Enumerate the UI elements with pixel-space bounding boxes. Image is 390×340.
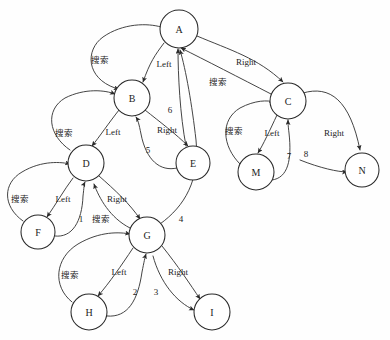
edge-f-to-d bbox=[8, 162, 71, 221]
node-label-f: F bbox=[35, 227, 41, 238]
lbl-left-d-f: Left bbox=[56, 194, 71, 204]
node-label-n: N bbox=[358, 165, 365, 176]
lbl-right-b-e: Right bbox=[157, 125, 178, 135]
node-i[interactable]: I bbox=[194, 294, 230, 330]
edge-c-to-n bbox=[300, 160, 347, 172]
edge-d-to-b bbox=[52, 91, 115, 150]
lbl-search-d-f: 搜索 bbox=[11, 194, 29, 204]
node-label-m: M bbox=[252, 167, 261, 178]
node-label-d: D bbox=[82, 158, 89, 169]
lbl-left-c-m: Left bbox=[265, 128, 280, 138]
node-label-g: G bbox=[143, 230, 150, 241]
edge-h-to-g bbox=[107, 254, 146, 316]
edge-c-to-a bbox=[181, 48, 271, 94]
edge-g-to-i bbox=[153, 256, 194, 310]
node-h[interactable]: H bbox=[71, 294, 107, 330]
node-b[interactable]: B bbox=[114, 80, 150, 116]
node-e[interactable]: E bbox=[176, 146, 210, 180]
lbl-right-d-g: Right bbox=[107, 194, 128, 204]
lbl-search-a-b: 搜索 bbox=[91, 55, 109, 65]
node-label-h: H bbox=[85, 307, 92, 318]
lbl-step-8: 8 bbox=[304, 149, 309, 159]
node-label-e: E bbox=[190, 158, 196, 169]
lbl-right-c-n: Right bbox=[324, 128, 345, 138]
node-c[interactable]: C bbox=[270, 83, 306, 119]
lbl-left-a-b: Left bbox=[157, 59, 172, 69]
lbl-left-b-d: Left bbox=[106, 127, 121, 137]
edge-c-to-n bbox=[303, 91, 360, 150]
node-n[interactable]: N bbox=[345, 153, 379, 187]
lbl-step-4: 4 bbox=[179, 214, 184, 224]
node-label-i: I bbox=[210, 307, 213, 318]
lbl-search-g-h: 搜索 bbox=[61, 270, 79, 280]
lbl-search-g-d: 搜索 bbox=[92, 214, 110, 224]
lbl-search-b-d: 搜索 bbox=[55, 128, 73, 138]
lbl-step-3: 3 bbox=[154, 287, 159, 297]
lbl-step-1: 1 bbox=[79, 214, 84, 224]
diagram-canvas: 搜索LeftRight搜索6搜索LeftRight5搜索LeftRight78搜… bbox=[0, 0, 390, 340]
lbl-step-6: 6 bbox=[168, 105, 173, 115]
lbl-step-2: 2 bbox=[133, 287, 138, 297]
node-label-c: C bbox=[285, 96, 292, 107]
node-f[interactable]: F bbox=[21, 215, 55, 249]
node-g[interactable]: G bbox=[129, 217, 165, 253]
lbl-right-g-i: Right bbox=[168, 267, 189, 277]
node-d[interactable]: D bbox=[68, 145, 104, 181]
lbl-step-5: 5 bbox=[146, 145, 151, 155]
edge-e-to-a bbox=[178, 49, 186, 146]
lbl-left-g-h: Left bbox=[112, 267, 127, 277]
lbl-right-a-c: Right bbox=[236, 57, 257, 67]
node-a[interactable]: A bbox=[160, 10, 198, 48]
node-label-a: A bbox=[175, 24, 183, 35]
edge-f-to-d bbox=[55, 182, 85, 236]
node-label-b: B bbox=[129, 93, 136, 104]
lbl-search-c-m: 搜索 bbox=[225, 126, 243, 136]
lbl-search-c-a: 搜索 bbox=[209, 77, 227, 87]
lbl-step-7: 7 bbox=[287, 151, 292, 161]
tree-graph-svg: 搜索LeftRight搜索6搜索LeftRight5搜索LeftRight78搜… bbox=[0, 0, 390, 340]
node-m[interactable]: M bbox=[238, 154, 274, 190]
